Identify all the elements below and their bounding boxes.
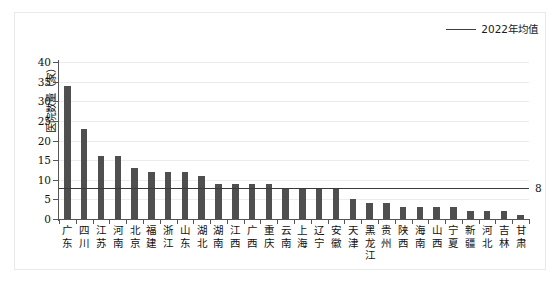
gridline: [59, 180, 529, 181]
x-tick-label: 辽宁: [311, 224, 327, 249]
x-tick-label: 福建: [143, 224, 159, 249]
x-tick-label: 湖北: [194, 224, 210, 249]
bar: [282, 188, 289, 219]
gridline: [59, 121, 529, 122]
x-tick-label: 新疆: [462, 224, 478, 249]
x-tick-label: 宁夏: [445, 224, 461, 249]
chart-figure: 2022年均值 医院数量（家） 0510152025303540 8 广东四川江…: [0, 0, 560, 291]
y-tick-label: 25: [16, 116, 51, 126]
y-tick-label: 40: [16, 57, 51, 67]
x-tick-label: 江西: [227, 224, 243, 249]
bar: [198, 176, 205, 219]
x-tick-mark: [529, 219, 530, 224]
y-tick-label: 5: [16, 194, 51, 204]
x-tick-label: 山东: [177, 224, 193, 249]
bar: [249, 184, 256, 219]
x-tick-label: 山西: [429, 224, 445, 249]
bar: [316, 188, 323, 219]
bar: [81, 129, 88, 219]
x-tick-label: 云南: [278, 224, 294, 249]
y-tick-label: 10: [16, 175, 51, 185]
bar: [266, 184, 273, 219]
x-tick-label: 四川: [76, 224, 92, 249]
bar: [501, 211, 508, 219]
plot-area: [59, 62, 529, 219]
x-tick-label: 北京: [127, 224, 143, 249]
bar: [182, 172, 189, 219]
bar: [165, 172, 172, 219]
bar: [467, 211, 474, 219]
bar: [350, 199, 357, 219]
gridline: [59, 82, 529, 83]
x-tick-label: 天津: [345, 224, 361, 249]
x-tick-label: 黑龙江: [362, 224, 378, 262]
x-tick-label: 甘肃: [513, 224, 529, 249]
y-tick-label: 0: [16, 214, 51, 224]
bar: [400, 207, 407, 219]
x-tick-label: 吉林: [496, 224, 512, 249]
x-tick-label: 广东: [59, 224, 75, 249]
average-value-label: 8: [535, 183, 542, 193]
bar: [215, 184, 222, 219]
bar: [333, 188, 340, 219]
gridline: [59, 141, 529, 142]
x-tick-label: 海南: [412, 224, 428, 249]
x-tick-label: 浙江: [160, 224, 176, 249]
y-tick-label: 30: [16, 96, 51, 106]
y-tick-label: 20: [16, 136, 51, 146]
x-tick-label: 上海: [294, 224, 310, 249]
bar: [484, 211, 491, 219]
x-tick-label: 安徽: [328, 224, 344, 249]
y-tick-label: 35: [16, 77, 51, 87]
x-tick-label: 陕西: [395, 224, 411, 249]
x-tick-label: 河北: [479, 224, 495, 249]
y-tick-label: 15: [16, 155, 51, 165]
bar: [417, 207, 424, 219]
gridline: [59, 160, 529, 161]
average-line: [59, 188, 529, 189]
x-tick-label: 河南: [110, 224, 126, 249]
gridline: [59, 101, 529, 102]
bar: [64, 86, 71, 219]
bar: [366, 203, 373, 219]
gridline: [59, 199, 529, 200]
bar: [383, 203, 390, 219]
x-tick-label: 湖南: [210, 224, 226, 249]
bar: [148, 172, 155, 219]
bar: [299, 188, 306, 219]
gridline: [59, 62, 529, 63]
bar: [517, 215, 524, 219]
x-tick-label: 贵州: [378, 224, 394, 249]
bar: [450, 207, 457, 219]
bar: [433, 207, 440, 219]
bar: [131, 168, 138, 219]
x-tick-label: 江苏: [93, 224, 109, 249]
x-tick-label: 重庆: [261, 224, 277, 249]
x-tick-label: 广西: [244, 224, 260, 249]
bar: [232, 184, 239, 219]
